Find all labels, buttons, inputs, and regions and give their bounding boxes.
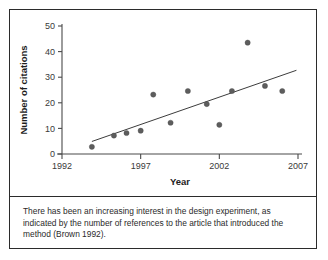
data-point: [89, 144, 94, 149]
citations-scatter-chart: 010203040501992199720022007Number of cit…: [10, 10, 316, 196]
regression-trend-line: [92, 70, 297, 141]
figure-caption: There has been an increasing interest in…: [23, 206, 303, 241]
figure-frame: 010203040501992199720022007Number of cit…: [9, 9, 317, 249]
x-axis-title: Year: [170, 176, 190, 187]
data-point: [262, 83, 267, 88]
data-point: [151, 92, 156, 97]
data-point: [185, 88, 190, 93]
y-tick-label: 20: [45, 98, 55, 108]
y-axis-title: Number of citations: [18, 45, 29, 134]
data-point: [280, 88, 285, 93]
data-point: [229, 88, 234, 93]
data-point: [168, 120, 173, 125]
x-tick-label: 1992: [52, 161, 72, 171]
y-tick-label: 30: [45, 72, 55, 82]
y-tick-label: 40: [45, 47, 55, 57]
y-tick-label: 50: [45, 21, 55, 31]
x-tick-label: 2007: [288, 161, 308, 171]
y-tick-label: 10: [45, 124, 55, 134]
data-point: [138, 128, 143, 133]
data-point: [217, 122, 222, 127]
x-tick-label: 1997: [131, 161, 151, 171]
y-tick-label: 0: [50, 149, 55, 159]
data-point: [111, 133, 116, 138]
data-point: [124, 130, 129, 135]
data-point: [204, 101, 209, 106]
x-tick-label: 2002: [209, 161, 229, 171]
caption-block: There has been an increasing interest in…: [10, 197, 316, 241]
data-point: [245, 40, 250, 45]
chart-canvas: 010203040501992199720022007Number of cit…: [10, 10, 316, 196]
